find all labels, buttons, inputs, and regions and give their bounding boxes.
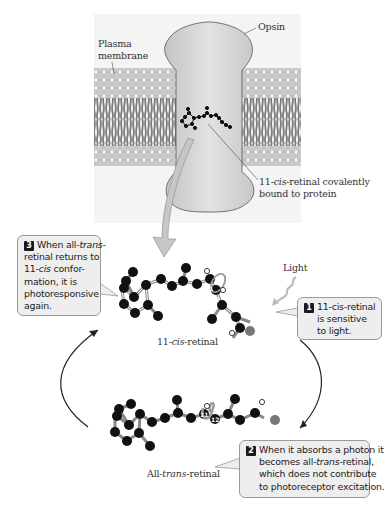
plasma-membrane-label-line2: membrane (98, 50, 148, 61)
step-3-badge: 3 (24, 241, 34, 251)
cis-retinal-molecule (119, 263, 255, 338)
atom-12-marker-top: 12 (211, 296, 219, 303)
cycle-arrow-right (300, 340, 321, 428)
step-1-badge: 1 (304, 303, 314, 313)
lipid-bilayer-right (242, 68, 301, 166)
light-label: Light (283, 262, 307, 273)
light-wave (275, 277, 296, 303)
atom-11-marker-bottom: 11 (200, 411, 208, 418)
cis-retinal-label: 11-cis-retinal (157, 336, 218, 347)
callout-step-1: 111-cis-retinal is sensitive to light. (297, 297, 382, 340)
plasma-membrane-label-line1: Plasma (98, 38, 131, 49)
callout-1-pointer (276, 308, 298, 316)
trans-retinal-label: All-trans-retinal (147, 468, 220, 479)
bound-retinal-label-line2: bound to protein (259, 188, 336, 199)
cycle-arrow-left (61, 330, 98, 427)
bound-retinal-label-line1: 11-cis-retinal covalently (259, 176, 370, 187)
lipid-bilayer-left (94, 68, 176, 166)
callout-step-2: 2When it absorbs a photon it becomes all… (239, 440, 370, 498)
atom-11-marker-top: 11 (205, 285, 213, 292)
opsin-label: Opsin (258, 21, 285, 32)
step-2-badge: 2 (246, 446, 256, 456)
atom-12-marker-bottom: 12 (211, 416, 219, 423)
callout-3-pointer (100, 283, 118, 296)
retinal-isomerization-figure: 11 12 11 12 Opsin Plasma membrane 11-cis… (0, 0, 388, 507)
callout-step-3: 3When all-trans- retinal returns to 11-c… (17, 235, 101, 316)
